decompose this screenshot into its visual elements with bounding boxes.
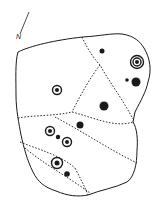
crack-line (75, 168, 88, 195)
cup-and-ring-marks (46, 49, 144, 177)
cup-mark (100, 102, 109, 111)
rock-art-diagram: N (0, 0, 158, 214)
cup-mark (77, 122, 84, 129)
cup-mark (56, 135, 60, 139)
cup-and-ring-mark (63, 138, 72, 147)
north-label: N (16, 33, 21, 40)
crack-line (72, 65, 100, 112)
cup-and-ring-mark (52, 158, 63, 169)
cup-and-ring-mark (46, 127, 55, 136)
cup-mark (64, 171, 70, 177)
cup-mark (132, 78, 141, 87)
rock-outline (16, 34, 150, 196)
crack-line (18, 112, 72, 118)
crack-line (55, 117, 137, 163)
cup-and-ring-mark (131, 56, 144, 69)
cup-and-ring-mark (53, 86, 62, 95)
north-arrow-icon (20, 12, 29, 34)
cup-mark (125, 78, 129, 82)
crack-line (25, 148, 90, 193)
rock-plan-drawing (0, 0, 158, 214)
crack-lines (18, 37, 137, 195)
cup-mark (100, 49, 105, 54)
